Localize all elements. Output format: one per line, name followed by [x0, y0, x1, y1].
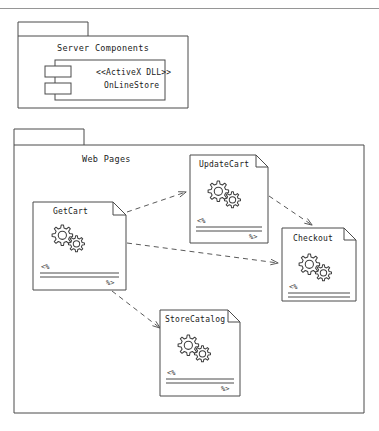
page-getcart[interactable]	[33, 202, 126, 290]
package-web-pages[interactable]	[14, 129, 364, 413]
component-onlinestore[interactable]	[45, 60, 165, 100]
page-checkout[interactable]	[282, 228, 356, 301]
page-updatecart[interactable]	[190, 155, 268, 243]
package-server-components[interactable]	[18, 22, 188, 108]
uml-component-diagram	[0, 0, 379, 431]
page-storecatalog[interactable]	[160, 310, 240, 396]
component-onlinestore-port-lower	[45, 83, 71, 94]
component-onlinestore-port-upper	[45, 66, 71, 77]
